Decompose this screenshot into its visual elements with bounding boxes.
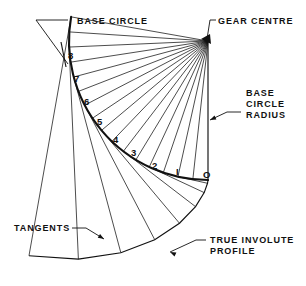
tangent-line-6 (74, 77, 121, 253)
tangent-line-8 (29, 17, 71, 256)
point-label-0: O (203, 169, 210, 180)
label-tangents: TANGENTS (14, 223, 70, 233)
point-label-6: 6 (84, 96, 89, 107)
true-involute-profile-leader-line (170, 240, 206, 252)
label-base-circle-radius-line-1: BASE (246, 88, 275, 98)
label-gear-centre: GEAR CENTRE (218, 16, 293, 26)
label-true-involute-profile-line-1: TRUE INVOLUTE (210, 235, 294, 245)
label-true-involute-profile-line-2: PROFILE (210, 246, 255, 256)
point-label-7: 7 (74, 73, 79, 84)
arrowhead-base-circle-radius (210, 115, 216, 120)
label-base-circle: BASE CIRCLE (77, 16, 148, 26)
radial-line-2 (149, 41, 208, 167)
radial-line-6 (74, 41, 208, 77)
radial-fan-line-5 (92, 41, 208, 118)
radial-fan-line-4 (112, 41, 208, 141)
point-label-2: 2 (152, 160, 157, 171)
point-label-4: 4 (113, 134, 119, 145)
arrowhead-tangents (98, 234, 104, 239)
point-label-3: 3 (131, 147, 136, 158)
tangent-line-5 (85, 105, 155, 240)
base-circle-leader-line (36, 20, 68, 64)
arrowhead-true-involute-profile (170, 252, 176, 257)
label-base-circle-radius-line-3: RADIUS (246, 110, 286, 120)
radial-line-1 (178, 41, 208, 177)
involute-construction-diagram: BASE CIRCLE GEAR CENTRE TANGENTS BASECIR… (0, 0, 306, 286)
label-true-involute-profile: TRUE INVOLUTEPROFILE (210, 235, 294, 256)
radial-fan-line-8 (69, 32, 208, 41)
point-label-5: 5 (97, 116, 103, 127)
base-circle-extension-tick (61, 42, 66, 67)
figure-canvas: BASE CIRCLE GEAR CENTRE TANGENTS BASECIR… (0, 0, 306, 286)
radial-line-4 (102, 41, 208, 130)
label-base-circle-radius-line-2: CIRCLE (246, 99, 285, 109)
radial-lines-group (69, 17, 208, 179)
point-label-8: 8 (68, 50, 73, 61)
point-label-1: I (176, 166, 179, 177)
label-base-circle-radius: BASECIRCLERADIUS (246, 88, 286, 120)
